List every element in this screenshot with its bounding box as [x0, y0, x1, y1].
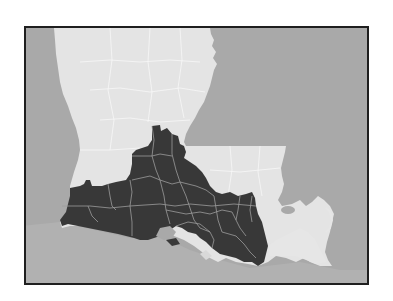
lake-pontchartrain [281, 206, 295, 214]
louisiana-map [24, 26, 369, 285]
map-frame [24, 26, 369, 285]
